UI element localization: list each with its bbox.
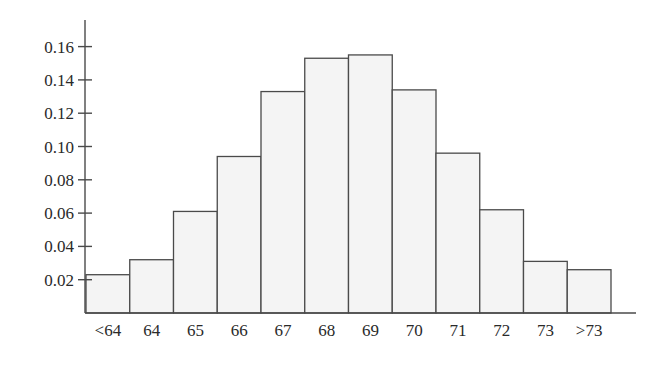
x-tick-label: 73 xyxy=(537,321,554,340)
bar xyxy=(86,275,130,313)
x-axis-labels: <6464656667686970717273>73 xyxy=(95,321,603,340)
bar xyxy=(392,90,436,313)
bars-group xyxy=(86,55,611,313)
x-tick-label: 64 xyxy=(143,321,161,340)
x-tick-label: 68 xyxy=(318,321,335,340)
y-tick-label: 0.10 xyxy=(44,138,74,157)
bar xyxy=(524,261,568,313)
bar xyxy=(436,153,480,313)
x-tick-label: 65 xyxy=(187,321,204,340)
histogram-chart: 0.020.040.060.080.100.120.140.16 <646465… xyxy=(0,0,669,365)
x-tick-label: 66 xyxy=(231,321,248,340)
x-tick-label: 71 xyxy=(449,321,466,340)
bar xyxy=(217,156,261,313)
y-tick-label: 0.14 xyxy=(44,71,74,90)
x-tick-label: 70 xyxy=(406,321,423,340)
x-tick-label: <64 xyxy=(95,321,122,340)
y-tick-label: 0.02 xyxy=(44,271,74,290)
y-tick-label: 0.08 xyxy=(44,171,74,190)
bar xyxy=(130,260,174,313)
bar xyxy=(480,210,524,313)
y-tick-label: 0.06 xyxy=(44,204,74,223)
x-tick-label: 67 xyxy=(274,321,292,340)
x-tick-label: 69 xyxy=(362,321,379,340)
x-tick-label: 72 xyxy=(493,321,510,340)
bar xyxy=(174,211,218,313)
y-tick-label: 0.16 xyxy=(44,38,74,57)
bar xyxy=(261,92,305,313)
y-tick-label: 0.04 xyxy=(44,237,74,256)
bar xyxy=(567,270,611,313)
bar xyxy=(305,58,349,313)
bar xyxy=(349,55,393,313)
x-tick-label: >73 xyxy=(576,321,603,340)
y-tick-label: 0.12 xyxy=(44,104,74,123)
